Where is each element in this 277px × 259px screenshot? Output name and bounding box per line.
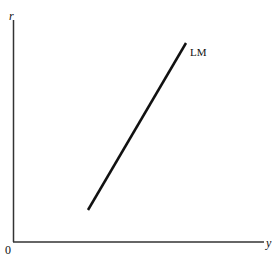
is-lm-diagram: r y 0 LM xyxy=(0,0,277,259)
x-axis-label: y xyxy=(265,236,272,250)
lm-curve-label: LM xyxy=(190,46,207,58)
origin-label: 0 xyxy=(5,243,11,257)
lm-curve xyxy=(88,43,186,210)
y-axis-label: r xyxy=(9,9,14,23)
